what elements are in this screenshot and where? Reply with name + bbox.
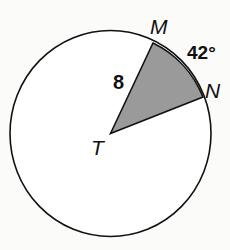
- center-t-label: T: [91, 137, 104, 158]
- circle-diagram: M 42° N 8 T: [0, 0, 230, 250]
- radius-length-label: 8: [113, 72, 124, 92]
- circle-figure: [0, 0, 230, 250]
- point-n-label: N: [205, 80, 220, 101]
- arc-measure-label: 42°: [187, 43, 216, 62]
- point-m-label: M: [150, 16, 168, 37]
